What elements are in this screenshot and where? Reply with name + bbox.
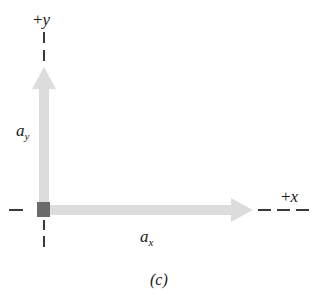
x-axis-dash-left-1 — [9, 209, 23, 211]
vector-ay-label: ay — [16, 122, 29, 142]
y-axis-label: +y — [33, 11, 50, 28]
vector-ay-label-base: a — [16, 121, 25, 140]
y-axis-dash-upper-2 — [43, 50, 45, 61]
origin-marker — [37, 202, 50, 217]
vector-ay-shaft — [39, 88, 49, 212]
vector-ay-label-sub: y — [25, 130, 30, 142]
vector-ax-label: ax — [140, 228, 153, 248]
vector-ax-label-base: a — [140, 227, 149, 246]
x-axis-dash-right-3 — [296, 209, 309, 211]
y-axis-dash-lower-2 — [43, 236, 45, 247]
vector-ay-arrowhead — [32, 67, 56, 89]
x-axis-label-letter: x — [291, 187, 299, 206]
vector-ax-label-sub: x — [149, 236, 154, 248]
y-axis-dash-lower-1 — [43, 220, 45, 230]
y-axis-label-letter: y — [43, 10, 51, 29]
x-axis-label-text: + — [281, 187, 291, 206]
figure-caption: (c) — [150, 272, 168, 288]
y-axis-dash-upper-1 — [43, 32, 45, 43]
x-axis-dash-right-1 — [258, 209, 271, 211]
y-axis-label-text: + — [33, 10, 43, 29]
vector-components-figure: +y +x ay ax (c) — [0, 0, 318, 299]
x-axis-dash-right-2 — [277, 209, 290, 211]
vector-ax-arrowhead — [231, 198, 253, 222]
x-axis-label: +x — [281, 188, 298, 205]
vector-ax-shaft — [45, 205, 231, 215]
